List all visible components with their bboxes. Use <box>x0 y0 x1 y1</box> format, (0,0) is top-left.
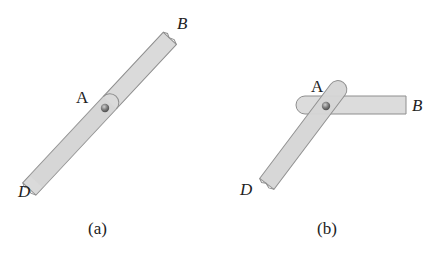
bar-ad <box>260 77 351 189</box>
label-d: D <box>17 182 31 201</box>
caption-b-text: (b) <box>317 219 337 238</box>
panel-a: A B D (a) <box>17 14 188 238</box>
pin-a-icon <box>101 104 109 112</box>
hinged-bars-diagram: A B D (a) A B D (b) <box>0 0 440 255</box>
label-b: B <box>177 14 188 33</box>
caption-b: (b) <box>317 219 337 238</box>
panel-b: A B D (b) <box>239 77 423 238</box>
label-a-b: A <box>311 77 324 96</box>
pin-a-icon-b <box>322 102 330 110</box>
label-d-b: D <box>239 180 253 199</box>
label-a: A <box>76 88 89 107</box>
caption-a: (a) <box>88 219 107 238</box>
label-b-b: B <box>412 96 423 115</box>
caption-a-text: (a) <box>88 219 107 238</box>
